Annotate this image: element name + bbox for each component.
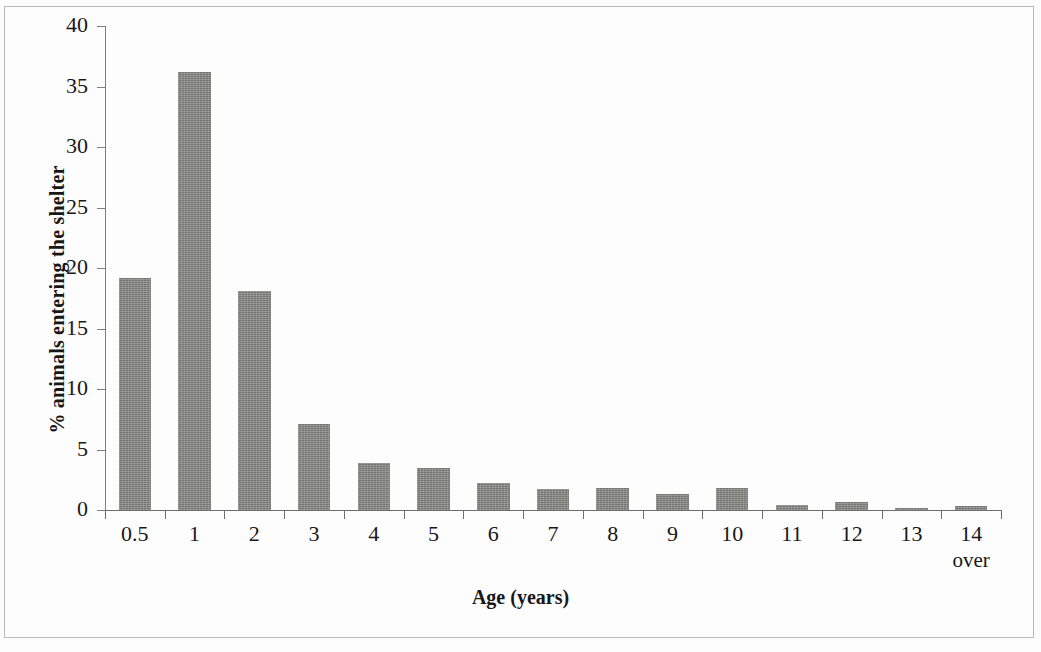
x-axis-tick-label: 3 [284,521,344,547]
x-axis-tick [882,510,883,519]
x-axis-tick-label: 7 [523,521,583,547]
y-axis-tick: 10 [97,389,105,390]
y-axis-tick-label: 30 [66,134,88,158]
x-axis-tick [702,510,703,519]
bar [119,278,152,510]
x-axis-tick [463,510,464,519]
y-axis-tick: 0 [97,510,105,511]
x-axis-tick [344,510,345,519]
x-axis-tick [643,510,644,519]
y-axis-tick: 25 [97,208,105,209]
bar [298,424,331,510]
x-axis-tick-label: 4 [344,521,404,547]
bar [656,494,689,510]
x-axis-tick [941,510,942,519]
bar [537,489,570,510]
x-axis-tick-label: 1 [165,521,225,547]
x-axis-tick-label: 12 [822,521,882,547]
x-axis-tick-label: 0.5 [105,521,165,547]
bar [716,488,749,510]
chart-figure: % animals entering the shelter 051015202… [0,0,1041,652]
y-axis-tick-label: 5 [77,437,88,461]
x-axis-tick-label: 13 [882,521,942,547]
x-axis-tick-label: 11 [762,521,822,547]
bar [776,505,809,510]
x-axis-tick-label: 2 [224,521,284,547]
x-axis-tick [284,510,285,519]
x-axis-tick [105,510,106,519]
bar [895,508,928,510]
bar [178,72,211,510]
x-axis-tick [224,510,225,519]
bar-series [105,26,1001,510]
y-axis-tick: 15 [97,329,105,330]
bar [955,506,988,510]
x-axis-tick-sublabel: over [941,547,1001,573]
x-axis-tick-label: 8 [583,521,643,547]
x-axis-tick [404,510,405,519]
y-axis-tick-label: 40 [66,13,88,37]
bar [477,483,510,510]
y-axis-tick-label: 25 [66,195,88,219]
y-axis-tick: 5 [97,450,105,451]
plot-area: 0510152025303540 [105,26,1001,510]
x-axis-tick-label: 10 [702,521,762,547]
x-axis-tick [583,510,584,519]
x-axis-tick [523,510,524,519]
x-axis-tick-label: 9 [643,521,703,547]
y-axis-tick-label: 15 [66,316,88,340]
x-axis-line [105,510,1001,511]
x-axis-tick [165,510,166,519]
x-axis-tick [1001,510,1002,519]
y-axis-tick: 30 [97,147,105,148]
x-axis-tick [762,510,763,519]
x-axis-tick-label: 5 [404,521,464,547]
bar [417,468,450,510]
bar [358,463,391,510]
y-axis-tick-label: 10 [66,376,88,400]
y-axis-tick-label: 20 [66,255,88,279]
y-axis-tick-label: 35 [66,74,88,98]
x-axis-title: Age (years) [0,586,1041,609]
x-axis-tick-label: 14over [941,521,1001,573]
x-axis-tick-label: 6 [463,521,523,547]
bar [835,502,868,510]
x-axis-tick [822,510,823,519]
bar [238,291,271,510]
y-axis-tick: 20 [97,268,105,269]
y-axis-tick: 35 [97,87,105,88]
y-axis-tick: 40 [97,26,105,27]
bar [596,488,629,510]
x-axis-tick-labels: 0.51234567891011121314over [105,521,1001,591]
y-axis-tick-label: 0 [77,497,88,521]
